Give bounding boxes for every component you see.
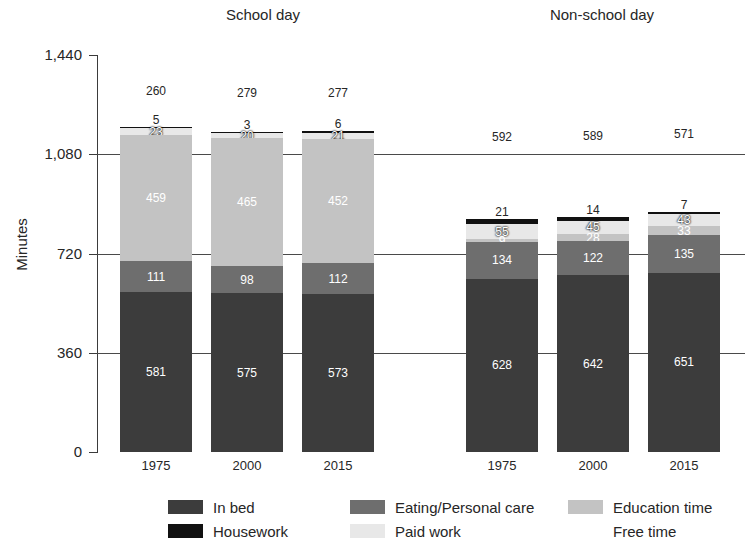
legend-item-label: Housework [213, 523, 288, 540]
legend-item[interactable]: In bed [168, 497, 255, 517]
segment-value-label: 628 [466, 359, 538, 371]
segment-value-label: 573 [302, 367, 374, 379]
bar-segment[interactable]: 459 [120, 135, 192, 262]
bar-segment[interactable]: 98 [211, 266, 283, 293]
legend-swatch-icon [168, 500, 203, 514]
bar-segment[interactable]: 575 [211, 293, 283, 452]
stacked-bar-chart: School day Non-school day Minutes 1,4401… [0, 0, 753, 546]
segment-value-label: 465 [211, 196, 283, 208]
y-tick-label: 1,440 [0, 46, 82, 63]
legend-swatch-icon [350, 500, 385, 514]
bar-stack: 32046598575 [211, 132, 283, 452]
segment-value-label: 21 [466, 206, 538, 218]
bar-segment[interactable]: 135 [648, 235, 720, 272]
legend-item[interactable]: Education time [568, 497, 712, 517]
bar-segment[interactable]: 628 [466, 279, 538, 452]
bar-segment[interactable]: 33 [648, 226, 720, 235]
bar-segment[interactable]: 465 [211, 138, 283, 266]
segment-value-label: 642 [557, 358, 629, 370]
x-tick-label: 2015 [648, 458, 720, 473]
legend-swatch-icon [568, 524, 603, 538]
bar-segment[interactable]: 112 [302, 263, 374, 294]
segment-value-label: 7 [648, 199, 720, 211]
legend-item[interactable]: Housework [168, 521, 288, 541]
segment-value-label: 575 [211, 367, 283, 379]
legend-swatch-icon [350, 524, 385, 538]
y-tick-mark [89, 55, 98, 56]
segment-value-label: 651 [648, 356, 720, 368]
y-tick-label: 0 [0, 443, 82, 460]
bar-segment[interactable]: 573 [302, 294, 374, 452]
y-tick-label: 720 [0, 245, 82, 262]
bar-stack: 144528122642 [557, 217, 629, 452]
bar-stack: 523459111581 [120, 127, 192, 452]
x-tick-label: 1975 [120, 458, 192, 473]
y-tick-mark [89, 452, 98, 453]
bar-segment[interactable]: 111 [120, 261, 192, 292]
segment-value-label: 98 [211, 274, 283, 286]
legend-item-label: Eating/Personal care [395, 499, 534, 516]
legend-item-label: Paid work [395, 523, 461, 540]
legend-item[interactable]: Paid work [350, 521, 461, 541]
bar-segment[interactable]: 28 [557, 234, 629, 242]
bar-segment[interactable]: 642 [557, 275, 629, 452]
bar-column[interactable]: 74333135651 [648, 55, 720, 452]
segment-value-label: 459 [120, 192, 192, 204]
bar-stack: 74333135651 [648, 212, 720, 452]
bar-column[interactable]: 621452112573 [302, 55, 374, 452]
legend-swatch-icon [568, 500, 603, 514]
bar-segment[interactable]: 122 [557, 241, 629, 275]
y-tick-label: 360 [0, 344, 82, 361]
segment-value-label: 111 [120, 271, 192, 283]
x-tick-label: 2000 [211, 458, 283, 473]
legend-item[interactable]: Free time [568, 521, 676, 541]
segment-value-label: 112 [302, 273, 374, 285]
bar-column[interactable]: 21559134628 [466, 55, 538, 452]
legend-item-label: In bed [213, 499, 255, 516]
bar-stack: 621452112573 [302, 131, 374, 452]
legend-item-label: Free time [613, 523, 676, 540]
legend-item-label: Education time [613, 499, 712, 516]
group-title-non-school-day: Non-school day [452, 6, 752, 23]
x-tick-label: 2000 [557, 458, 629, 473]
chart-legend: In bedHouseworkEating/Personal carePaid … [168, 497, 748, 543]
segment-value-label: 134 [466, 254, 538, 266]
legend-item[interactable]: Eating/Personal care [350, 497, 534, 517]
segment-value-label: 122 [557, 252, 629, 264]
x-tick-label: 1975 [466, 458, 538, 473]
bar-segment[interactable]: 134 [466, 242, 538, 279]
group-title-school-day: School day [108, 6, 418, 23]
segment-value-label: 14 [557, 204, 629, 216]
segment-value-label: 452 [302, 195, 374, 207]
bar-column[interactable]: 523459111581 [120, 55, 192, 452]
bar-segment[interactable]: 452 [302, 139, 374, 264]
bar-segment[interactable]: 651 [648, 273, 720, 452]
bar-segment[interactable]: 581 [120, 292, 192, 452]
segment-value-label: 581 [120, 366, 192, 378]
y-tick-label: 1,080 [0, 145, 82, 162]
bar-stack: 21559134628 [466, 219, 538, 452]
legend-swatch-icon [168, 524, 203, 538]
bar-column[interactable]: 32046598575 [211, 55, 283, 452]
segment-value-label: 135 [648, 248, 720, 260]
bar-column[interactable]: 144528122642 [557, 55, 629, 452]
x-tick-label: 2015 [302, 458, 374, 473]
